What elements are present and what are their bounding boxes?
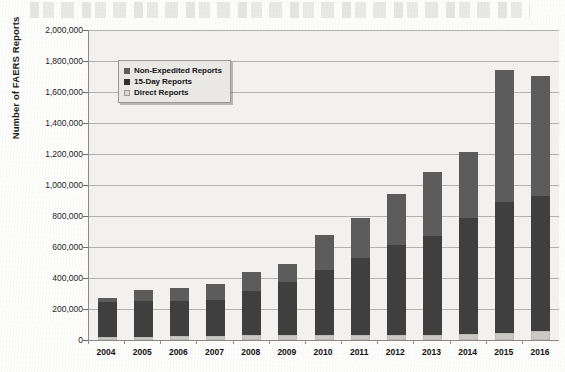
y-axis-tick-mark xyxy=(83,216,88,217)
bar-segment-non-expedited-reports xyxy=(170,288,189,301)
y-axis-tick-label: 0 xyxy=(7,335,83,345)
y-axis-tick-mark xyxy=(83,154,88,155)
y-axis-tick-mark xyxy=(83,92,88,93)
x-axis-tick-mark xyxy=(233,340,234,344)
x-axis-tick-mark xyxy=(88,340,89,344)
bar-segment-15-day-reports xyxy=(315,270,334,335)
x-axis-tick-mark xyxy=(450,340,451,344)
x-axis-line xyxy=(88,340,558,341)
y-axis-tick-label: 400,000 xyxy=(7,273,83,283)
bar-2009 xyxy=(278,264,297,340)
y-axis-tick-label: 1,000,000 xyxy=(7,180,83,190)
gridline xyxy=(89,30,559,31)
y-axis-tick-mark xyxy=(83,309,88,310)
chart-legend: Non-Expedited Reports15-Day ReportsDirec… xyxy=(118,60,231,103)
y-axis-tick-label: 1,400,000 xyxy=(7,118,83,128)
bar-2006 xyxy=(170,288,189,340)
legend-item-label: Direct Reports xyxy=(134,88,188,97)
x-axis-tick-mark xyxy=(413,340,414,344)
bar-2004 xyxy=(98,298,117,340)
gridline xyxy=(89,216,559,217)
y-axis-tick-mark xyxy=(83,30,88,31)
x-axis-tick-mark xyxy=(124,340,125,344)
bar-segment-15-day-reports xyxy=(242,291,261,335)
x-axis-tick-label-2012: 2012 xyxy=(386,347,405,357)
x-axis-tick-mark xyxy=(269,340,270,344)
y-axis-tick-label: 1,200,000 xyxy=(7,149,83,159)
bar-2011 xyxy=(351,218,370,340)
x-axis-tick-label-2016: 2016 xyxy=(530,347,549,357)
y-axis-tick-mark xyxy=(83,123,88,124)
x-axis-tick-label-2008: 2008 xyxy=(241,347,260,357)
bar-2013 xyxy=(423,172,442,340)
y-axis-tick-label: 600,000 xyxy=(7,242,83,252)
bar-segment-non-expedited-reports xyxy=(531,76,550,196)
bar-2012 xyxy=(387,194,406,340)
bar-segment-non-expedited-reports xyxy=(315,235,334,270)
bar-segment-non-expedited-reports xyxy=(459,152,478,218)
x-axis-tick-label-2014: 2014 xyxy=(458,347,477,357)
y-axis-tick-label: 800,000 xyxy=(7,211,83,221)
y-axis-tick-label: 1,800,000 xyxy=(7,56,83,66)
legend-item-label: Non-Expedited Reports xyxy=(134,66,222,75)
bar-segment-non-expedited-reports xyxy=(206,284,225,300)
bar-segment-direct-reports xyxy=(495,333,514,340)
bar-2014 xyxy=(459,152,478,340)
bar-segment-non-expedited-reports xyxy=(134,290,153,301)
legend-item: 15-Day Reports xyxy=(124,76,222,87)
bar-2015 xyxy=(495,70,514,340)
bar-segment-15-day-reports xyxy=(423,236,442,335)
bar-2007 xyxy=(206,284,225,340)
bar-segment-15-day-reports xyxy=(351,258,370,336)
non-expedited-swatch-icon xyxy=(124,68,130,74)
bar-segment-15-day-reports xyxy=(278,282,297,335)
bar-segment-15-day-reports xyxy=(206,300,225,336)
bar-2005 xyxy=(134,290,153,340)
y-axis-tick-mark xyxy=(83,185,88,186)
x-axis-tick-mark xyxy=(305,340,306,344)
x-axis-tick-mark xyxy=(377,340,378,344)
x-axis-tick-label-2015: 2015 xyxy=(494,347,513,357)
bar-segment-non-expedited-reports xyxy=(423,172,442,236)
legend-item: Non-Expedited Reports xyxy=(124,65,222,76)
bar-2008 xyxy=(242,272,261,340)
bar-segment-non-expedited-reports xyxy=(351,218,370,257)
bar-2016 xyxy=(531,76,550,340)
legend-item-label: 15-Day Reports xyxy=(134,77,192,86)
x-axis-tick-mark xyxy=(196,340,197,344)
legend-item: Direct Reports xyxy=(124,87,222,98)
x-axis-tick-label-2006: 2006 xyxy=(169,347,188,357)
x-axis-tick-label-2010: 2010 xyxy=(314,347,333,357)
y-axis-tick-label: 1,600,000 xyxy=(7,87,83,97)
x-axis-tick-mark xyxy=(522,340,523,344)
x-axis-tick-mark xyxy=(160,340,161,344)
x-axis-tick-label-2005: 2005 xyxy=(133,347,152,357)
direct-swatch-icon xyxy=(124,90,130,96)
gridline xyxy=(89,185,559,186)
bar-segment-non-expedited-reports xyxy=(242,272,261,291)
y-axis-tick-mark xyxy=(83,61,88,62)
bar-segment-non-expedited-reports xyxy=(495,70,514,202)
x-axis-tick-label-2013: 2013 xyxy=(422,347,441,357)
x-axis-tick-label-2004: 2004 xyxy=(97,347,116,357)
bar-segment-15-day-reports xyxy=(170,301,189,336)
y-axis-tick-mark xyxy=(83,247,88,248)
x-axis-tick-mark xyxy=(486,340,487,344)
bar-segment-non-expedited-reports xyxy=(278,264,297,282)
gridline xyxy=(89,123,559,124)
x-axis-tick-mark xyxy=(341,340,342,344)
bar-segment-non-expedited-reports xyxy=(387,194,406,245)
bar-segment-direct-reports xyxy=(531,331,550,340)
y-axis-tick-label: 200,000 xyxy=(7,304,83,314)
gridline xyxy=(89,154,559,155)
bar-segment-15-day-reports xyxy=(495,202,514,332)
x-axis-tick-label-2011: 2011 xyxy=(350,347,368,357)
bar-segment-15-day-reports xyxy=(531,196,550,332)
faers-reports-stacked-bar-chart: Number of FAERS Reports 2,000,0001,800,0… xyxy=(0,0,565,372)
x-axis-tick-label-2009: 2009 xyxy=(277,347,296,357)
y-axis-tick-mark xyxy=(83,278,88,279)
bar-2010 xyxy=(315,235,334,340)
scanned-page: Number of FAERS Reports 2,000,0001,800,0… xyxy=(0,0,565,372)
bar-segment-15-day-reports xyxy=(134,301,153,337)
bar-segment-15-day-reports xyxy=(459,218,478,335)
